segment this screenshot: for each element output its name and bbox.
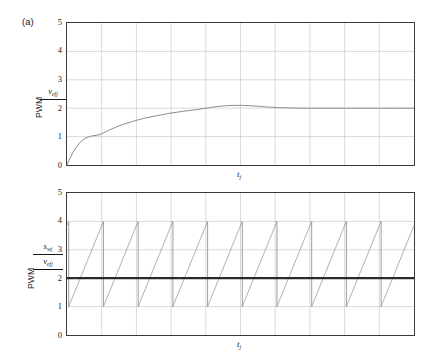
panel-a-ytick-5: 5 xyxy=(48,18,62,27)
panel-a-data-curve xyxy=(67,23,414,165)
panel-b-plot-area xyxy=(66,192,415,336)
panel-a-plot-area xyxy=(66,22,415,166)
panel-b-ylabel-denominator: vefj xyxy=(33,256,63,269)
panel-label-a: (a) xyxy=(22,16,34,27)
panel-a-ytick-2: 2 xyxy=(48,104,62,113)
panel-b-pwm-label: PWM xyxy=(26,268,36,289)
panel-a-ytick-4: 4 xyxy=(48,46,62,55)
figure-canvas: (a) PWM vefj 5 4 3 2 1 0 tj PWM swj xyxy=(0,0,430,363)
panel-a-ytick-3: 3 xyxy=(48,75,62,84)
panel-a-y-axis-label: vefj xyxy=(40,86,66,101)
panel-a-x-axis-label: tj xyxy=(237,169,241,180)
panel-a: (a) PWM vefj 5 4 3 2 1 0 tj xyxy=(0,0,430,182)
panel-b-ytick-5: 5 xyxy=(48,188,62,197)
panel-a-fraction-bar xyxy=(40,99,66,100)
panel-a-ytick-1: 1 xyxy=(48,132,62,141)
panel-b-x-axis-label: tj xyxy=(237,339,241,350)
panel-b-ytick-1: 1 xyxy=(48,302,62,311)
panel-b: PWM swj vefj 5 4 3 2 1 0 tj xyxy=(0,181,430,363)
panel-b-ytick-3: 3 xyxy=(48,245,62,254)
panel-b-ytick-4: 4 xyxy=(48,216,62,225)
panel-b-ytick-2: 2 xyxy=(48,274,62,283)
panel-b-fraction-bar-lower xyxy=(33,269,63,271)
panel-b-ytick-0: 0 xyxy=(48,331,62,340)
panel-b-data-curves xyxy=(67,193,414,335)
panel-a-ytick-0: 0 xyxy=(48,161,62,170)
panel-a-ylabel-numerator: vefj xyxy=(40,86,66,99)
